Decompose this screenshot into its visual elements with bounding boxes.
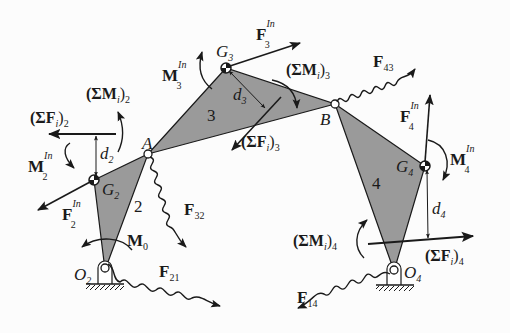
- moment-m2-in-arc: [65, 143, 74, 168]
- joint-o2: [101, 264, 109, 272]
- label-a: A: [142, 135, 152, 152]
- center-of-mass-g4: [420, 161, 430, 171]
- label-g3: G3: [216, 43, 233, 63]
- link-4-number: 4: [372, 175, 381, 192]
- center-of-mass-g2: [89, 175, 99, 185]
- label-m2-in: MIn2: [28, 157, 57, 178]
- label-m0: M0: [127, 232, 148, 252]
- force-f43-wavy: [337, 69, 415, 102]
- force-f32-wavy: [150, 157, 186, 247]
- label-sum-f3: (ΣFii)3: [241, 134, 280, 153]
- label-f21: F21: [159, 263, 179, 283]
- label-g4: G4: [396, 158, 413, 178]
- label-d2: d2: [100, 145, 114, 165]
- force-f4-in-arrow: [425, 95, 430, 162]
- label-d4: d4: [432, 200, 446, 220]
- moment-m3-in-arc: [200, 52, 212, 89]
- link-2-number: 2: [134, 198, 143, 215]
- label-f32: F32: [184, 201, 204, 221]
- label-f14: F14: [297, 289, 317, 309]
- label-sum-m3: (ΣMi)3: [286, 62, 330, 81]
- label-g2: G2: [102, 181, 119, 201]
- linkage-diagram: O2 A B O4 G2 G3 G4 2 3 4 FIn3 F43 FIn4 F…: [0, 0, 510, 333]
- label-m4-in: MIn4: [450, 150, 479, 171]
- label-f3-in: FIn3: [256, 25, 280, 46]
- label-o2: O2: [74, 266, 91, 286]
- label-d3: d3: [233, 86, 247, 106]
- label-sum-m2: (ΣMi)2: [86, 86, 130, 105]
- label-o4: O4: [404, 264, 421, 284]
- label-f2-in: FIn2: [62, 205, 86, 226]
- label-b: B: [320, 111, 330, 128]
- sum-m2-arc: [118, 112, 123, 152]
- label-sum-m4: (ΣMi)4: [293, 233, 337, 252]
- label-f4-in: FIn4: [400, 107, 424, 128]
- label-sum-f4: (ΣFii)4: [425, 248, 464, 267]
- link-3-number: 3: [207, 107, 216, 124]
- dimension-d4: [427, 170, 428, 238]
- label-sum-f2: (ΣFii)2: [30, 110, 69, 129]
- joint-o4: [390, 266, 398, 274]
- moment-m4-in-arc: [428, 140, 447, 180]
- label-f43: F43: [373, 53, 393, 73]
- label-m3-in: MIn3: [162, 66, 191, 87]
- sum-m4-arc: [357, 220, 367, 258]
